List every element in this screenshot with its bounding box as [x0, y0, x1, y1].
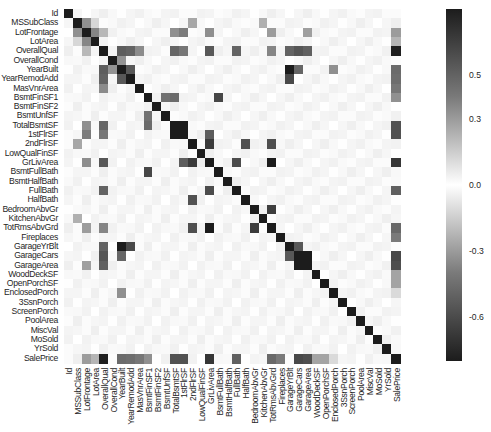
correlation-heatmap [64, 9, 400, 363]
y-tick-label: YrSold [34, 344, 58, 353]
y-tick-label: MSSubClass [11, 18, 58, 27]
colorbar-tick-label: -0.3 [469, 246, 484, 256]
y-tick-label: BsmtFullBath [10, 167, 58, 176]
x-tick-label: SalePrice [392, 368, 402, 402]
colorbar-tick-label: 0.5 [469, 70, 481, 80]
y-tick-label: GarageCars [14, 251, 58, 260]
colorbar-tick-label: -0.6 [469, 312, 484, 322]
colorbar [446, 9, 462, 361]
y-tick-label: YearRemodAdd [1, 74, 58, 83]
y-tick-label: HalfBath [27, 195, 58, 204]
y-tick-label: TotRmsAbvGrd [3, 223, 58, 232]
colorbar-tick-label: 0.3 [469, 114, 481, 124]
colorbar-tick-label: 0.0 [469, 180, 481, 190]
y-tick-label: OverallQual [16, 46, 58, 55]
y-tick-label: SalePrice [24, 354, 58, 363]
heatmap-cell [391, 354, 400, 364]
